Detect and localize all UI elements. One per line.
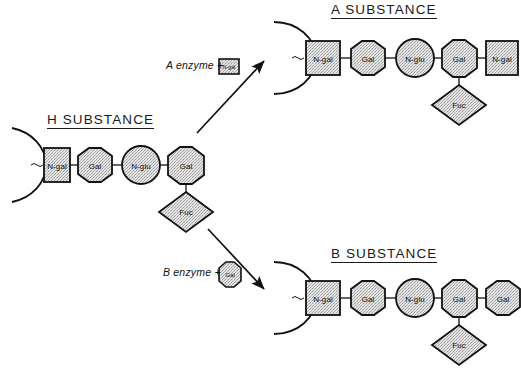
reaction-label-b-enzyme: B enzyme + <box>163 266 221 278</box>
residue-label-h-n-gal: N-gal <box>47 162 67 171</box>
diagram-canvas: N-gal Gal N-glu Gal Fuc N-gal <box>0 0 521 375</box>
linker-squiggle-b <box>292 297 304 300</box>
residue-label-a-gal-2: Gal <box>453 55 466 64</box>
protein-bracket-h <box>12 128 46 202</box>
residue-label-b-gal-1: Gal <box>362 295 375 304</box>
title-b-substance: B SUBSTANCE <box>331 246 437 263</box>
reagent-label-b: Gal <box>225 271 235 278</box>
title-a-substance: A SUBSTANCE <box>331 2 437 19</box>
residue-label-a-n-glu: N-glu <box>405 55 425 64</box>
reagent-glyph-b: Gal <box>219 262 241 287</box>
reaction-label-a-enzyme: A enzyme + <box>166 59 223 71</box>
glycan-abo-substance-diagram: N-gal Gal N-glu Gal Fuc N-gal <box>0 0 521 375</box>
linker-squiggle-h <box>31 164 43 167</box>
title-h-substance: H SUBSTANCE <box>47 112 154 129</box>
residue-label-h-gal-2: Gal <box>180 162 193 171</box>
residue-label-b-n-gal: N-gal <box>313 295 333 304</box>
residue-label-b-gal-3: Gal <box>497 295 510 304</box>
residue-label-b-gal-2: Gal <box>453 295 466 304</box>
residue-label-a-n-gal-2: N-gal <box>492 55 512 64</box>
residue-label-b-n-glu: N-glu <box>405 295 425 304</box>
chain-h: N-gal Gal N-glu Gal Fuc <box>12 128 213 232</box>
chain-b: N-gal Gal N-glu Gal Gal Fuc <box>274 262 520 365</box>
chain-a: N-gal Gal N-glu Gal N-gal Fuc <box>274 22 518 125</box>
residue-label-a-gal-1: Gal <box>362 55 375 64</box>
residue-label-a-n-gal-1: N-gal <box>313 55 333 64</box>
reagent-label-a: N-gal <box>223 64 235 70</box>
residue-label-a-fuc: Fuc <box>452 101 466 110</box>
linker-squiggle-a <box>292 57 304 60</box>
residue-label-h-fuc: Fuc <box>179 208 193 217</box>
residue-label-h-n-glu: N-glu <box>131 162 151 171</box>
residue-label-b-fuc: Fuc <box>452 341 466 350</box>
residue-label-h-gal-1: Gal <box>89 162 102 171</box>
